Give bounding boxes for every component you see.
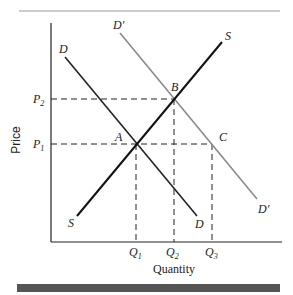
x-axis-title: Quantity (153, 262, 195, 276)
demand-label-top: D (58, 42, 68, 56)
point-b-label: B (171, 80, 179, 94)
demand-shifted-curve (120, 33, 257, 199)
dashed-guides (51, 99, 212, 242)
supply-demand-diagram: D' D S S D D' A B C P2 P1 Q1 Q2 Q3 Quant… (0, 0, 293, 295)
quantity-tick-q2: Q2 (166, 245, 179, 261)
supply-label-top: S (225, 29, 231, 43)
quantity-tick-q3: Q3 (205, 245, 218, 261)
y-axis-title: Price (9, 126, 23, 154)
demand-shifted-label-top: D' (112, 18, 125, 32)
price-tick-p1: P1 (32, 137, 44, 153)
bottom-bar (17, 284, 280, 292)
supply-label-bottom: S (68, 216, 74, 230)
demand-shifted-label-bottom: D' (257, 202, 270, 216)
point-a-label: A (114, 130, 123, 144)
demand-label-bottom: D (194, 217, 204, 231)
price-tick-p2: P2 (32, 92, 44, 108)
point-c-label: C (219, 130, 228, 144)
quantity-tick-q1: Q1 (129, 245, 142, 261)
